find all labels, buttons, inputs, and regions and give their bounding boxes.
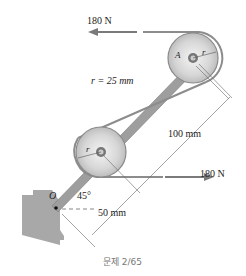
force-bottom-label: 180 N — [200, 168, 225, 179]
force-arrow-top — [88, 28, 137, 36]
force-top-label: 180 N — [87, 15, 112, 26]
pulley-arm-diagram — [0, 0, 246, 276]
pulley-b — [76, 127, 126, 177]
dim-100mm-label: 100 mm — [168, 128, 201, 139]
ground-support — [22, 63, 64, 245]
pivot-o-dot — [54, 206, 58, 210]
radius-symbol-bottom: r — [86, 144, 90, 154]
dim-50mm-label: 50 mm — [98, 207, 126, 218]
point-o-label: O — [49, 190, 56, 201]
angle-label: 45° — [77, 190, 91, 201]
radius-label: r = 25 mm — [91, 75, 134, 86]
point-a-label: A — [175, 50, 181, 60]
figure-caption: 문제 2/65 — [103, 255, 142, 268]
radius-symbol-top: r — [202, 47, 206, 57]
